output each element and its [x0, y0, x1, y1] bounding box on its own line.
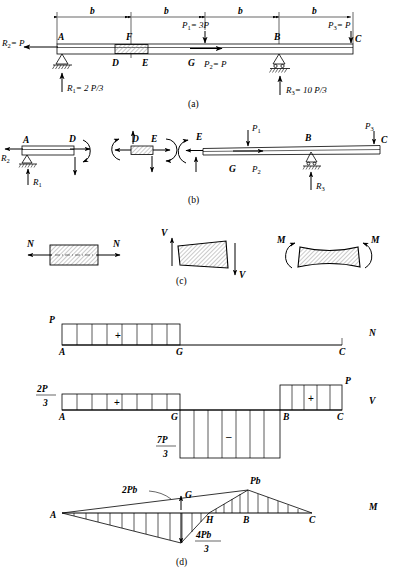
panel-c-N-label-left: N: [26, 239, 35, 249]
n-diagram-peak-label: P: [49, 315, 55, 325]
panel-b-point-E: E: [195, 132, 202, 142]
n-diagram-point-C: C: [339, 347, 346, 357]
m-diagram-value-Pb: Pb: [250, 476, 261, 486]
panel-b-point-A: A: [22, 135, 29, 145]
panel-d-n-diagram: + P A G C N: [49, 315, 377, 357]
point-label-A: A: [57, 32, 64, 42]
beam-internal-force-figure: b b b b: [0, 0, 398, 572]
support-roller-B: [270, 54, 291, 73]
v-neg-num: 7P: [157, 435, 168, 445]
point-label-D: D: [111, 58, 119, 68]
panel-d-caption: (d): [176, 557, 187, 568]
v-diagram-axis-label: V: [369, 396, 376, 406]
v-diagram-point-A: A: [58, 412, 65, 422]
m-diagram-point-C: C: [309, 515, 316, 525]
panel-b-P3-label: P3: [364, 121, 374, 132]
n-diagram-sign-plus: +: [115, 330, 121, 341]
load-P1-label: P1= 3P: [181, 20, 210, 31]
panel-b-point-G: G: [229, 164, 236, 174]
v-left-num: 2P: [36, 384, 48, 394]
beam-segment-DE-hatched: [115, 45, 148, 54]
m-4pb-den: 3: [203, 544, 209, 554]
panel-d-v-diagram: + – + 2P 3 P 7P: [36, 376, 376, 459]
v-left-den: 3: [42, 398, 48, 408]
n-diagram-axis-label: N: [368, 328, 377, 338]
m-diagram-point-A: A: [49, 510, 56, 520]
panel-d-m-diagram: 2Pb Pb 4Pb 3 A G H B C M (d): [49, 476, 378, 568]
m-diagram-axis-label: M: [368, 502, 378, 512]
reaction-R1-label: R1= 2 P/3: [66, 83, 104, 94]
v-diagram-right-value: P: [345, 376, 351, 386]
panel-b-R2-label: R2: [0, 153, 10, 164]
panel-b-R1-label: R1: [32, 177, 42, 188]
v-neg-den: 3: [162, 449, 168, 459]
dim-label-b-1: b: [90, 6, 95, 16]
panel-b-middle-element: D E: [112, 131, 177, 172]
m-diagram-point-G: G: [185, 490, 192, 500]
dim-label-b-3: b: [238, 6, 243, 16]
panel-b-point-D: D: [68, 134, 76, 144]
reaction-R2-label: R2= P: [1, 38, 25, 49]
m-diagram-point-H: H: [205, 515, 214, 525]
panel-b-right-segment: E P1 G P2: [178, 121, 388, 192]
panel-b-P2-label: P2: [251, 164, 261, 175]
dim-label-b-4: b: [312, 6, 317, 16]
panel-b-mid-point-D: D: [131, 134, 139, 144]
panel-c-shear-element: V V: [161, 228, 246, 280]
panel-a: b b b b: [1, 6, 362, 110]
panel-c-V-label-left: V: [161, 228, 168, 238]
panel-b-point-B: B: [304, 133, 311, 143]
v-diagram-point-B: B: [282, 412, 289, 422]
v-diagram-point-G: G: [171, 412, 178, 422]
v-diagram-sign-plus-left: +: [114, 397, 120, 408]
panel-c-moment-element: M M: [276, 235, 380, 268]
panel-c-normal-element: N N: [26, 239, 121, 265]
panel-c-M-label-left: M: [276, 235, 286, 245]
panel-c-V-label-right: V: [239, 270, 246, 280]
n-diagram-point-A: A: [58, 347, 65, 357]
panel-b: R2 R1 A D: [0, 121, 388, 206]
load-P2-label: P2= P: [203, 59, 227, 70]
v-diagram-sign-minus: –: [226, 431, 232, 442]
point-label-G: G: [188, 58, 195, 68]
load-P3-label: P3= P: [327, 20, 351, 31]
m-diagram-value-4Pb3: 4Pb 3: [195, 530, 221, 554]
panel-a-caption: (a): [188, 99, 199, 110]
panel-c-caption: (c): [176, 276, 187, 287]
panel-b-R3-label: R3: [315, 181, 325, 192]
n-diagram-point-G: G: [176, 347, 183, 357]
v-diagram-left-value: 2P 3: [36, 384, 56, 408]
point-label-B: B: [273, 32, 280, 42]
m-4pb-num: 4Pb: [195, 530, 212, 540]
panel-c: N N V V M M (c): [26, 228, 380, 287]
panel-c-M-label-right: M: [370, 235, 380, 245]
reaction-R3-label: R3= 10 P/3: [285, 85, 327, 96]
panel-b-point-C: C: [381, 135, 388, 145]
v-diagram-neg-value: 7P 3: [156, 435, 176, 459]
point-label-F: F: [125, 32, 133, 42]
panel-b-mid-point-E: E: [150, 134, 157, 144]
panel-b-caption: (b): [188, 195, 199, 206]
dim-label-b-2: b: [164, 6, 169, 16]
v-diagram-sign-plus-right: +: [308, 393, 314, 404]
panel-b-left-segment: R2 R1 A D: [0, 134, 90, 188]
point-label-E: E: [141, 58, 148, 68]
support-pin-A: [53, 54, 73, 69]
m-diagram-point-B: B: [242, 515, 249, 525]
v-diagram-point-C: C: [337, 412, 344, 422]
panel-c-N-label-right: N: [112, 239, 121, 249]
m-diagram-value-2Pb: 2Pb: [121, 485, 138, 495]
point-label-C: C: [355, 34, 362, 44]
panel-b-P1-label: P1: [251, 123, 261, 134]
